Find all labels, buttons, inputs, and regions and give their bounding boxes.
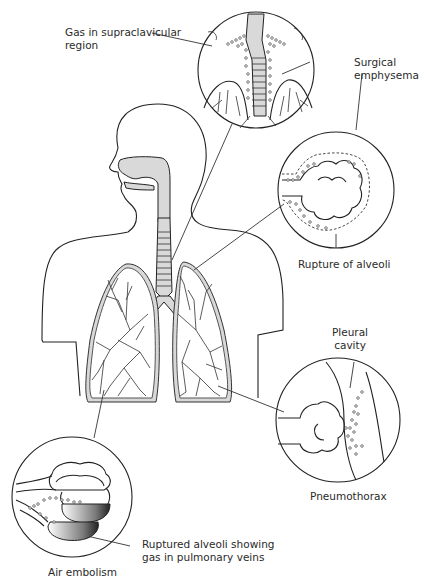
air-embolism-inset [12,437,132,557]
label-pleural-cavity: Pleural cavity [332,326,368,352]
label-line: cavity [332,339,368,352]
pneumothorax-inset [276,358,400,482]
label-line: region [65,39,181,52]
label-line: gas in pulmonary veins [142,551,274,564]
label-line: emphysema [354,69,419,82]
label-air-embolism: Air embolism [48,566,117,579]
label-supraclavicular: Gas in supraclavicular region [65,26,181,52]
gas-bubbles [345,391,364,456]
label-rupture-of-alveoli: Rupture of alveoli [298,258,391,271]
supraclavicular-inset [198,12,314,128]
label-line: Gas in supraclavicular [65,26,181,39]
alveoli-rupture-inset [278,132,394,248]
label-ruptured-alveoli-veins: Ruptured alveoli showing gas in pulmonar… [142,538,274,564]
label-pneumothorax: Pneumothorax [310,490,387,503]
label-line: Ruptured alveoli showing [142,538,274,551]
label-line: Pleural [332,326,368,339]
label-line: Surgical [354,56,419,69]
label-surgical-emphysema: Surgical emphysema [354,56,419,82]
